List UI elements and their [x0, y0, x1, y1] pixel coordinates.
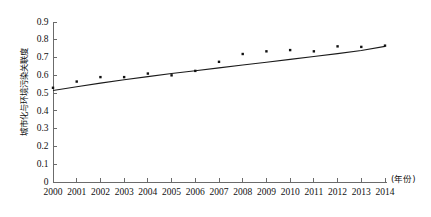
data-points-series — [52, 44, 386, 89]
x-tick-label: 2013 — [352, 187, 371, 197]
x-tick-label: 2006 — [186, 187, 205, 197]
data-point — [242, 53, 244, 55]
x-tick-label: 2008 — [233, 187, 252, 197]
y-tick-label: 0.6 — [37, 70, 49, 80]
y-tick-label: 0.3 — [37, 123, 49, 133]
data-point — [289, 49, 291, 51]
y-tick-label: 0.2 — [37, 141, 49, 151]
x-tick-label: 2001 — [67, 187, 86, 197]
scatter-plot-canvas: 00.10.20.30.40.50.60.70.80.9 20002001200… — [0, 0, 431, 217]
x-tick-label: 2003 — [115, 187, 134, 197]
data-point — [147, 72, 149, 74]
data-point — [218, 61, 220, 63]
data-point — [99, 76, 101, 78]
y-tick-label: 0 — [44, 177, 49, 187]
y-tick-label: 0.1 — [37, 159, 49, 169]
x-tick-label: 2011 — [305, 187, 324, 197]
x-tick-label: 2004 — [138, 187, 157, 197]
data-point — [313, 50, 315, 52]
y-tick-label: 0.9 — [37, 17, 49, 27]
x-tick-label: 2014 — [376, 187, 395, 197]
trend-line — [53, 46, 385, 90]
y-axis-ticks: 00.10.20.30.40.50.60.70.80.9 — [37, 17, 57, 187]
trend-line-series — [53, 46, 385, 90]
x-tick-label: 2010 — [281, 187, 300, 197]
y-tick-label: 0.5 — [37, 88, 49, 98]
data-point — [384, 44, 386, 46]
y-tick-label: 0.4 — [37, 106, 49, 116]
x-axis-unit-text: (年份) — [391, 174, 416, 184]
x-tick-label: 2009 — [257, 187, 276, 197]
data-point — [52, 87, 54, 89]
x-tick-label: 2012 — [328, 187, 347, 197]
y-tick-label: 0.8 — [37, 34, 49, 44]
x-axis-unit-label: (年份) — [391, 174, 416, 184]
x-tick-label: 2002 — [91, 187, 110, 197]
data-point — [336, 45, 338, 47]
data-point — [123, 76, 125, 78]
data-point — [76, 80, 78, 82]
chart-figure: 城市化与环境污染关联度 00.10.20.30.40.50.60.70.80.9… — [0, 0, 431, 217]
data-point — [360, 46, 362, 48]
y-tick-label: 0.7 — [37, 52, 49, 62]
x-tick-label: 2000 — [44, 187, 63, 197]
data-point — [194, 70, 196, 72]
x-tick-label: 2005 — [162, 187, 181, 197]
x-axis-ticks: 2000200120022003200420052006200720082009… — [44, 178, 395, 197]
x-tick-label: 2007 — [210, 187, 229, 197]
data-point — [265, 50, 267, 52]
data-point — [170, 74, 172, 76]
